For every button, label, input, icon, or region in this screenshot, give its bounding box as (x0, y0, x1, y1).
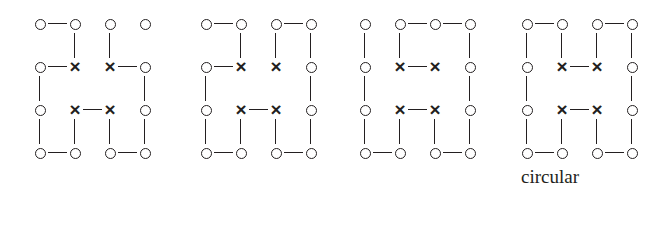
node-x (267, 101, 285, 119)
bond-horizontal (118, 66, 137, 67)
node-o (461, 144, 479, 162)
node-x (588, 101, 606, 119)
node-o (518, 101, 536, 119)
node-o (518, 15, 536, 33)
bond-vertical (399, 119, 400, 144)
node-o (66, 144, 84, 162)
node-o (136, 144, 154, 162)
bond-horizontal (214, 23, 233, 24)
bond-vertical (631, 119, 632, 144)
bond-horizontal (535, 152, 554, 153)
lattice-grid (517, 14, 641, 166)
bond-horizontal (408, 109, 427, 110)
node-o (31, 101, 49, 119)
node-o (518, 144, 536, 162)
node-o (391, 15, 409, 33)
bond-vertical (434, 119, 435, 144)
bond-horizontal (48, 152, 67, 153)
bond-vertical (469, 119, 470, 144)
node-o (623, 58, 641, 76)
node-o (461, 101, 479, 119)
lattice-panel-3 (355, 14, 479, 166)
node-x (267, 58, 285, 76)
lattice-panel-4: circular (517, 14, 641, 166)
node-o (232, 144, 250, 162)
bond-vertical (596, 33, 597, 58)
node-x (391, 101, 409, 119)
node-x (588, 58, 606, 76)
node-x (101, 58, 119, 76)
bond-vertical (631, 33, 632, 58)
node-o (588, 144, 606, 162)
node-o (197, 58, 215, 76)
node-o (302, 15, 320, 33)
node-o (267, 15, 285, 33)
node-x (66, 101, 84, 119)
node-o (101, 15, 119, 33)
bond-horizontal (48, 23, 67, 24)
bond-horizontal (249, 109, 268, 110)
bond-vertical (310, 76, 311, 101)
bond-horizontal (605, 152, 624, 153)
lattice-panel-2 (196, 14, 320, 166)
bond-vertical (205, 119, 206, 144)
bond-vertical (39, 119, 40, 144)
bond-vertical (39, 76, 40, 101)
bond-horizontal (605, 23, 624, 24)
bond-horizontal (570, 109, 589, 110)
bond-horizontal (214, 152, 233, 153)
bond-vertical (144, 76, 145, 101)
panel-caption: circular (521, 167, 579, 187)
bond-vertical (275, 33, 276, 58)
bond-vertical (275, 119, 276, 144)
node-o (356, 101, 374, 119)
bond-vertical (526, 33, 527, 58)
node-o (197, 101, 215, 119)
bond-vertical (109, 33, 110, 58)
node-o (553, 15, 571, 33)
bond-vertical (399, 33, 400, 58)
lattice-grid (355, 14, 479, 166)
bond-vertical (240, 119, 241, 144)
bond-horizontal (284, 152, 303, 153)
bond-vertical (469, 33, 470, 58)
lattice-grid (30, 14, 154, 166)
bond-horizontal (118, 152, 137, 153)
bond-vertical (144, 119, 145, 144)
lattice-figure: circular (0, 0, 672, 226)
node-o (356, 144, 374, 162)
bond-vertical (205, 76, 206, 101)
node-o (461, 58, 479, 76)
node-o (588, 15, 606, 33)
node-o (356, 15, 374, 33)
node-x (232, 101, 250, 119)
node-o (426, 144, 444, 162)
node-o (356, 58, 374, 76)
lattice-grid (196, 14, 320, 166)
bond-vertical (596, 119, 597, 144)
bond-vertical (526, 119, 527, 144)
bond-horizontal (443, 23, 462, 24)
node-o (232, 15, 250, 33)
bond-vertical (364, 76, 365, 101)
node-o (136, 15, 154, 33)
node-o (461, 15, 479, 33)
bond-vertical (364, 33, 365, 58)
bond-horizontal (408, 23, 427, 24)
node-o (267, 144, 285, 162)
bond-horizontal (214, 66, 233, 67)
bond-vertical (240, 33, 241, 58)
node-o (31, 144, 49, 162)
node-o (31, 58, 49, 76)
bond-vertical (561, 33, 562, 58)
bond-vertical (561, 119, 562, 144)
node-o (302, 144, 320, 162)
node-o (31, 15, 49, 33)
bond-horizontal (83, 109, 102, 110)
node-o (623, 15, 641, 33)
bond-horizontal (48, 66, 67, 67)
bond-vertical (74, 119, 75, 144)
bond-vertical (469, 76, 470, 101)
node-o (136, 58, 154, 76)
node-o (197, 144, 215, 162)
